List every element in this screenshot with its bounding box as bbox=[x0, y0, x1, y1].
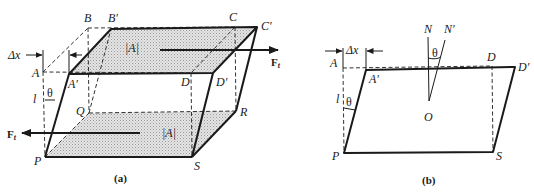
shear-strain-diagram: Δx θ l Ft Ft |A| |A| A A′ B B′ C C′ D D′… bbox=[0, 0, 534, 194]
vertex-D-b: D bbox=[486, 50, 496, 64]
figure-b: θ Δx θ l A A′ D D′ P S O N N′ (b) bbox=[325, 22, 530, 187]
vertex-S-b: S bbox=[496, 149, 502, 163]
vertex-R: R bbox=[239, 105, 248, 119]
height-label-b: l bbox=[336, 92, 340, 106]
vertex-A-prime: A′ bbox=[67, 77, 78, 91]
vertex-P: P bbox=[33, 154, 42, 168]
force-label-left: Ft bbox=[7, 128, 17, 142]
point-N-prime: N′ bbox=[443, 22, 455, 36]
delta-x-label-b: Δx bbox=[345, 43, 359, 57]
vertex-A-b: A bbox=[329, 56, 338, 70]
delta-x-label: Δx bbox=[7, 48, 21, 62]
caption-b: (b) bbox=[422, 174, 436, 187]
point-O: O bbox=[424, 110, 433, 124]
vertex-P-b: P bbox=[331, 149, 340, 163]
theta-label-side: θ bbox=[346, 95, 352, 109]
vertex-B-prime: B′ bbox=[108, 11, 118, 25]
area-label-bottom: |A| bbox=[162, 126, 176, 140]
vertex-B: B bbox=[84, 11, 92, 25]
vertex-A: A bbox=[31, 66, 40, 80]
theta-label-normal: θ bbox=[432, 46, 438, 60]
original-square-dashed bbox=[343, 66, 493, 153]
vertex-D-prime-b: D′ bbox=[517, 60, 530, 74]
vertex-C: C bbox=[229, 10, 238, 24]
vertex-D-prime: D′ bbox=[215, 75, 228, 89]
point-N: N bbox=[423, 22, 433, 36]
normal-N bbox=[428, 37, 429, 101]
height-label-a: l bbox=[33, 92, 37, 106]
vertex-A-prime-b: A′ bbox=[368, 72, 379, 86]
vertex-Q: Q bbox=[76, 104, 85, 118]
vertex-D: D bbox=[180, 75, 190, 89]
vertex-S: S bbox=[194, 159, 200, 173]
force-label-right: Ft bbox=[271, 56, 281, 70]
caption-a: (a) bbox=[114, 172, 127, 185]
area-label-top: |A| bbox=[125, 41, 139, 55]
vertex-C-prime: C′ bbox=[261, 19, 272, 33]
theta-label-a: θ bbox=[47, 86, 53, 100]
figure-a: Δx θ l Ft Ft |A| |A| A A′ B B′ C C′ D D′… bbox=[7, 10, 281, 185]
